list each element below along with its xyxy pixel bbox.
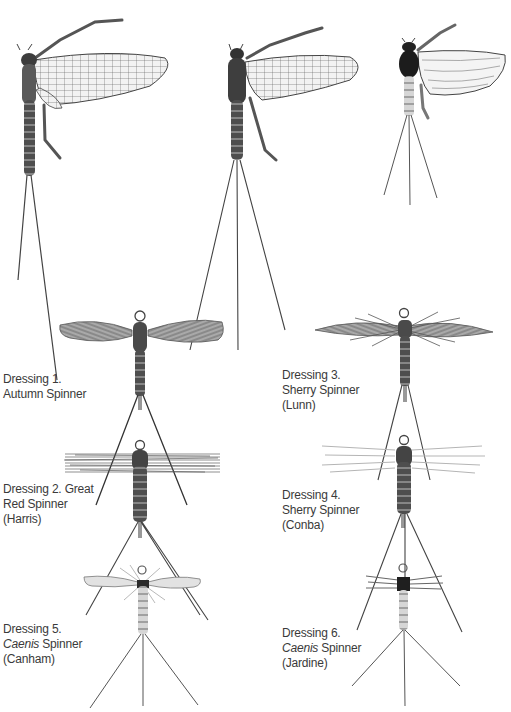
caption-line: Sherry Spinner [282, 503, 359, 518]
caption-dressing-2: Dressing 2. Great Red Spinner (Harris) [3, 482, 94, 527]
caption-line: Dressing 6. [282, 626, 361, 641]
caption-line: (Lunn) [282, 398, 359, 413]
caption-line: Dressing 5. [3, 622, 82, 637]
caption-line: Dressing 1. [3, 372, 86, 387]
caption-line: (Conba) [282, 518, 359, 533]
species-name: Caenis [3, 637, 39, 651]
caption-line: Dressing 4. [282, 488, 359, 503]
dressing-6-fly [352, 564, 460, 706]
caption-dressing-4: Dressing 4. Sherry Spinner (Conba) [282, 488, 359, 533]
natural-caenis [384, 25, 505, 205]
illustration-plate [0, 0, 511, 712]
caption-line: Dressing 3. [282, 368, 359, 383]
caption-line: Dressing 2. Great [3, 482, 94, 497]
caption-dressing-1: Dressing 1. Autumn Spinner [3, 372, 86, 402]
caption-line: Autumn Spinner [3, 387, 86, 402]
caption-line: (Jardine) [282, 656, 361, 671]
natural-spinner-medium [190, 28, 358, 350]
caption-text: Spinner [318, 641, 361, 655]
caption-dressing-3: Dressing 3. Sherry Spinner (Lunn) [282, 368, 359, 413]
caption-line: (Harris) [3, 512, 94, 527]
dressing-5-fly [84, 565, 200, 708]
caption-line: Sherry Spinner [282, 383, 359, 398]
caption-dressing-5: Dressing 5. Caenis Spinner (Canham) [3, 622, 82, 667]
caption-line: Caenis Spinner [282, 641, 361, 656]
caption-text: Spinner [39, 637, 82, 651]
caption-line: Red Spinner [3, 497, 94, 512]
species-name: Caenis [282, 641, 318, 655]
caption-line: (Canham) [3, 652, 82, 667]
caption-dressing-6: Dressing 6. Caenis Spinner (Jardine) [282, 626, 361, 671]
caption-line: Caenis Spinner [3, 637, 82, 652]
